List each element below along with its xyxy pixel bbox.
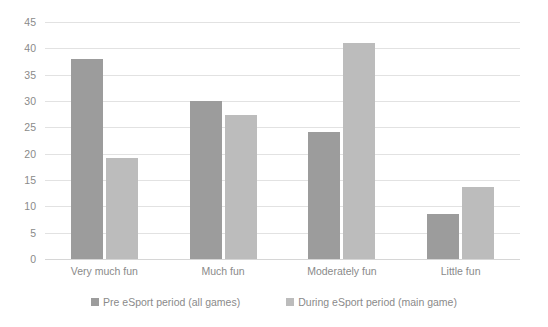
x-tick-label: Moderately fun (307, 266, 376, 277)
bar-group (427, 22, 494, 259)
bar (225, 115, 257, 259)
y-tick-label: 25 (24, 122, 36, 133)
y-tick-label: 30 (24, 96, 36, 107)
bar-group (71, 22, 138, 259)
bar (462, 187, 494, 259)
bar (71, 59, 103, 259)
legend-swatch-icon (91, 298, 99, 306)
bar (308, 132, 340, 259)
gridline (45, 259, 520, 260)
plot-area (45, 22, 520, 259)
y-tick-label: 35 (24, 69, 36, 80)
bar (106, 158, 138, 259)
y-tick-label: 40 (24, 43, 36, 54)
bar-chart: 454035302520151050 Very much funMuch fun… (0, 0, 548, 327)
bar (343, 43, 375, 259)
bar-group (190, 22, 257, 259)
x-tick-label: Much fun (202, 266, 245, 277)
legend-label: Pre eSport period (all games) (103, 297, 240, 308)
y-tick-label: 20 (24, 148, 36, 159)
x-tick-label: Little fun (441, 266, 481, 277)
y-tick-label: 5 (30, 227, 36, 238)
y-axis: 454035302520151050 (0, 0, 45, 259)
y-tick-label: 45 (24, 17, 36, 28)
y-tick-label: 10 (24, 201, 36, 212)
legend-label: During eSport period (main game) (298, 297, 457, 308)
y-tick-label: 15 (24, 175, 36, 186)
legend-swatch-icon (286, 298, 294, 306)
legend-item[interactable]: Pre eSport period (all games) (91, 297, 240, 308)
bar (190, 101, 222, 259)
bar (427, 214, 459, 259)
bar-group (308, 22, 375, 259)
y-tick-label: 0 (30, 254, 36, 265)
x-tick-label: Very much fun (71, 266, 138, 277)
chart-legend: Pre eSport period (all games)During eSpo… (0, 297, 548, 308)
legend-item[interactable]: During eSport period (main game) (286, 297, 457, 308)
